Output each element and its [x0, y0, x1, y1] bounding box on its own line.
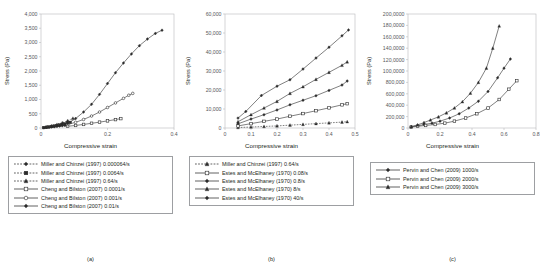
y-tick-label: 3,500 [25, 25, 38, 31]
y-tick-label: 30,000 [206, 68, 222, 74]
data-point-marker [315, 109, 318, 112]
legend-marker-icon [13, 169, 39, 177]
legend-marker-icon [375, 166, 401, 174]
y-tick-label: 0 [402, 125, 405, 131]
x-axis-title-b: Compressive strain [181, 142, 362, 149]
y-tick-label: 50,000 [206, 30, 222, 36]
y-tick-label: 1,500 [25, 82, 38, 88]
plot-area-a: 05001,0001,5002,0002,5003,0003,5004,0000… [0, 0, 181, 150]
legend-label: Miller and Chinzei (1997) 0.64/s [220, 161, 299, 167]
data-point-marker [82, 118, 85, 121]
y-tick-label: 120,0000 [383, 57, 405, 63]
data-point-marker [106, 106, 109, 109]
legend-label: Cheng and Bilston (2007) 0.0001/s [39, 186, 125, 192]
legend-item[interactable]: Miller and Chinzei (1997) 0.64/s [13, 177, 169, 185]
x-tick-label: 0.6 [500, 131, 507, 137]
y-tick-label: 20,000 [206, 87, 222, 93]
legend-item[interactable]: Estes and McElhaney (1970) 8/s [194, 185, 350, 193]
y-axis-title: Stress (Pa) [4, 57, 10, 85]
legend-marker-icon [194, 194, 220, 202]
legend-marker-icon [194, 169, 220, 177]
legend-item[interactable]: Estes and McElhaney (1970) 0.8/s [194, 177, 350, 185]
data-point-marker [341, 104, 344, 107]
legend-item[interactable]: Cheng and Bilston (2007) 0.001/s [13, 194, 169, 202]
legend-label: Pervin and Chen (2009) 2000/s [401, 176, 479, 182]
legend-item[interactable]: Pervin and Chen (2009) 1000/s [375, 166, 531, 174]
figure-container: 05001,0001,5002,0002,5003,0003,5004,0000… [0, 0, 543, 265]
legend-label: Pervin and Chen (2009) 1000/s [401, 167, 479, 173]
legend-a: Miller and Chinzei (1997) 0.000064/sMill… [8, 156, 173, 214]
y-tick-label: 2,000 [25, 68, 38, 74]
data-point-marker [434, 123, 437, 126]
legend-label: Estes and McElhaney (1970) 0.8/s [220, 178, 305, 184]
x-tick-label: 0 [407, 131, 410, 137]
data-point-marker [464, 117, 467, 120]
legend-marker-icon [13, 185, 39, 193]
y-tick-label: 200,0000 [383, 11, 405, 17]
y-tick-label: 500 [29, 111, 38, 117]
legend-item[interactable]: Miller and Chinzei (1997) 0.0064/s [13, 168, 169, 176]
y-tick-label: 4,000 [25, 11, 38, 17]
legend-label: Miller and Chinzei (1997) 0.0064/s [39, 170, 124, 176]
legend-marker-icon [194, 160, 220, 168]
data-point-marker [276, 118, 279, 121]
legend-item[interactable]: Cheng and Bilston (2007) 0.01/s [13, 202, 169, 210]
data-point-marker [90, 122, 93, 125]
data-point-marker [74, 121, 77, 124]
y-tick-label: 200,000 [386, 114, 405, 120]
plot-area-b: 010,00020,00030,00040,00050,00060,00000.… [181, 0, 362, 150]
y-tick-label: 100,0000 [383, 68, 405, 74]
x-tick-label: 0.4 [468, 131, 475, 137]
x-tick-label: 0.2 [436, 131, 443, 137]
y-axis-title: Stress (Pa) [366, 57, 372, 85]
data-point-marker [74, 124, 77, 127]
chart-c: 0200,000400,000600,000800,000100,0000120… [362, 0, 543, 150]
data-point-marker [444, 122, 447, 125]
y-tick-label: 140,0000 [383, 45, 405, 51]
data-point-marker [263, 120, 266, 123]
data-point-marker [131, 92, 134, 95]
legend-item[interactable]: Pervin and Chen (2009) 3000/s [375, 183, 531, 191]
legend-item[interactable]: Estes and McElhaney (1970) 40/s [194, 194, 350, 202]
y-tick-label: 0 [35, 125, 38, 131]
data-point-marker [114, 102, 117, 105]
caption-c: (c) [362, 256, 543, 262]
legend-item[interactable]: Pervin and Chen (2009) 2000/s [375, 174, 531, 182]
data-point-marker [424, 124, 427, 127]
y-tick-label: 180,0000 [383, 22, 405, 28]
chart-b: 010,00020,00030,00040,00050,00060,00000.… [181, 0, 362, 150]
x-tick-label: 0.1 [247, 131, 254, 137]
x-tick-label: 0.5 [351, 131, 358, 137]
data-point-marker [346, 102, 349, 105]
legend-label: Cheng and Bilston (2007) 0.001/s [39, 195, 122, 201]
data-point-marker [42, 126, 45, 129]
y-axis-title: Stress (Pa) [185, 57, 191, 85]
panel-c: 0200,000400,000600,000800,000100,0000120… [362, 0, 543, 265]
plot-area-c: 0200,000400,000600,000800,000100,0000120… [362, 0, 543, 150]
data-point-marker [90, 115, 93, 118]
legend-item[interactable]: Miller and Chinzei (1997) 0.64/s [194, 160, 350, 168]
legend-label: Miller and Chinzei (1997) 0.64/s [39, 178, 118, 184]
data-point-marker [114, 118, 117, 121]
y-tick-label: 1,000 [25, 96, 38, 102]
y-tick-label: 40,000 [206, 49, 222, 55]
data-point-marker [487, 107, 490, 110]
legend-label: Estes and McElhaney (1970) 0.08/s [220, 170, 308, 176]
y-tick-label: 2,500 [25, 54, 38, 60]
legend-marker-icon [375, 175, 401, 183]
legend-item[interactable]: Cheng and Bilston (2007) 0.0001/s [13, 185, 169, 193]
data-point-marker [106, 120, 109, 123]
data-point-marker [508, 88, 511, 91]
chart-a: 05001,0001,5002,0002,5003,0003,5004,0000… [0, 0, 181, 150]
data-point-marker [98, 111, 101, 114]
legend-item[interactable]: Estes and McElhaney (1970) 0.08/s [194, 168, 350, 176]
legend-label: Pervin and Chen (2009) 3000/s [401, 184, 479, 190]
legend-item[interactable]: Miller and Chinzei (1997) 0.000064/s [13, 160, 169, 168]
data-point-marker [250, 122, 253, 125]
data-point-marker [516, 79, 519, 82]
legend-label: Estes and McElhaney (1970) 8/s [220, 186, 301, 192]
data-point-marker [453, 120, 456, 123]
legend-label: Cheng and Bilston (2007) 0.01/s [39, 203, 119, 209]
caption-a: (a) [0, 256, 181, 262]
y-tick-label: 10,000 [206, 106, 222, 112]
